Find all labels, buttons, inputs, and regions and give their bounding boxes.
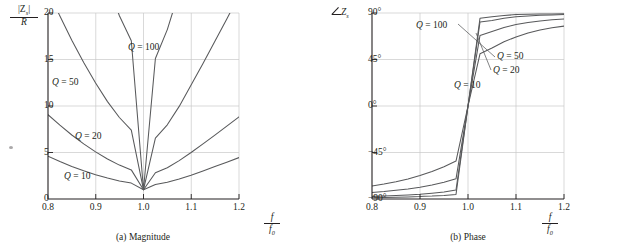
q-value: 10 [81, 171, 91, 181]
q-symbol: Q [454, 80, 461, 90]
phase-curve-label-q20: Q = 20 [493, 66, 519, 76]
phase-curve-label-q10: Q = 10 [454, 81, 480, 91]
phase-y-axis-title: Zs [332, 6, 349, 19]
magnitude-x-tick-1p0: 1.0 [138, 203, 150, 213]
phase-y-axis-subscript: s [346, 12, 348, 19]
phase-curve-label-q50: Q = 50 [497, 52, 523, 62]
q-value: 50 [69, 77, 79, 87]
phase-x-tick-0p9: 0.9 [414, 203, 426, 213]
magnitude-plot-panel: |Zs| R 0 5 10 15 20 0.8 0.9 1.0 1.1 1.2 … [0, 0, 312, 252]
q-equals: = [504, 51, 514, 61]
angle-icon [332, 6, 341, 16]
q-value: 50 [514, 51, 524, 61]
q-value: 20 [510, 65, 520, 75]
q-symbol: Q [416, 20, 423, 30]
q-value: 20 [92, 131, 102, 141]
impedance-figure: |Zs| R 0 5 10 15 20 0.8 0.9 1.0 1.1 1.2 … [0, 0, 625, 252]
y-axis-bar-close: | [28, 4, 30, 14]
q-symbol: Q [75, 131, 82, 141]
x-axis-denominator-subscript: 0 [272, 229, 275, 236]
q-equals: = [59, 77, 69, 87]
magnitude-x-tick-0p8: 0.8 [42, 203, 54, 213]
x-axis-denominator: f0 [542, 223, 558, 236]
magnitude-x-axis-title: f f0 [264, 213, 280, 236]
y-axis-denominator: R [10, 17, 38, 28]
q-value: 10 [471, 80, 481, 90]
q-equals: = [461, 80, 471, 90]
q-symbol: Q [128, 42, 135, 52]
phase-plot-panel: Zs −90° −45° 0° 45° 90° 0.8 0.9 1.0 1.1 … [313, 0, 625, 252]
x-axis-denominator: f0 [264, 223, 280, 236]
q-equals: = [71, 171, 81, 181]
x-axis-numerator: f [264, 213, 280, 223]
q-symbol: Q [497, 51, 504, 61]
phase-x-tick-1p0: 1.0 [462, 203, 474, 213]
magnitude-x-tick-1p1: 1.1 [185, 203, 197, 213]
q-equals: = [500, 65, 510, 75]
phase-y-ticks [372, 13, 377, 153]
phase-x-ticks [420, 194, 564, 199]
magnitude-x-tick-1p2: 1.2 [233, 203, 245, 213]
magnitude-y-axis-title: |Zs| R [10, 5, 38, 28]
x-axis-denominator-subscript: 0 [550, 229, 553, 236]
phase-x-tick-1p1: 1.1 [510, 203, 522, 213]
magnitude-x-tick-0p9: 0.9 [90, 203, 102, 213]
magnitude-x-ticks [96, 194, 239, 199]
x-axis-numerator: f [542, 213, 558, 223]
q-equals: = [82, 131, 92, 141]
q-symbol: Q [493, 65, 500, 75]
phase-caption: (b) Phase [450, 233, 486, 243]
y-axis-bar-open: |Z [18, 4, 26, 14]
magnitude-curve-label-q10: Q = 10 [64, 172, 90, 182]
magnitude-curve-label-q100: Q = 100 [128, 43, 159, 53]
phase-x-tick-0p8: 0.8 [366, 203, 378, 213]
q-value: 100 [433, 20, 447, 30]
phase-x-tick-1p2: 1.2 [558, 203, 570, 213]
phase-plot-svg [313, 0, 625, 252]
q-symbol: Q [52, 77, 59, 87]
q-equals: = [135, 42, 145, 52]
q-value: 100 [145, 42, 159, 52]
magnitude-curve-label-q50: Q = 50 [52, 78, 78, 88]
magnitude-caption: (a) Magnitude [116, 233, 170, 243]
q-symbol: Q [64, 171, 71, 181]
q-equals: = [423, 20, 433, 30]
phase-x-axis-title: f f0 [542, 213, 558, 236]
phase-curve-label-q100: Q = 100 [416, 21, 447, 31]
magnitude-curve-label-q20: Q = 20 [75, 132, 101, 142]
